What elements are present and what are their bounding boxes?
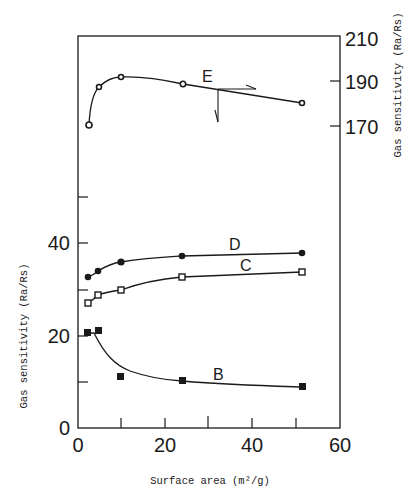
y-tick-20: 20 <box>48 325 70 347</box>
label-D: D <box>229 236 241 253</box>
y-right-tick-170: 170 <box>345 116 378 138</box>
label-B: B <box>213 366 224 383</box>
curves <box>88 77 302 387</box>
markers-C <box>85 269 305 306</box>
x-tick-0: 0 <box>72 434 83 456</box>
curve-E <box>89 77 302 125</box>
y-right-tick-210: 210 <box>345 28 378 50</box>
x-ticks <box>121 416 296 428</box>
y-tick-40: 40 <box>48 232 70 254</box>
y-tick-0: 0 <box>59 417 70 439</box>
y-axis-title: Gas sensitivity (Ra/Rs) <box>18 264 30 409</box>
x-axis-title: Surface area (m²/g) <box>150 475 270 487</box>
chart: 0 20 40 0 20 40 60 210 190 170 Surface a… <box>0 0 418 499</box>
right-y-ticks <box>330 81 340 126</box>
plot-frame <box>78 36 340 428</box>
left-y-ticks <box>78 197 88 382</box>
y-right-axis-title: Gas sensitivity (Ra/Rs) <box>392 13 404 158</box>
label-C: C <box>240 257 252 274</box>
x-tick-20: 20 <box>154 434 176 456</box>
markers-E <box>86 75 305 129</box>
markers-B <box>84 327 306 390</box>
label-E: E <box>202 68 213 85</box>
x-tick-40: 40 <box>241 434 263 456</box>
y-right-tick-190: 190 <box>345 71 378 93</box>
x-tick-60: 60 <box>329 434 351 456</box>
